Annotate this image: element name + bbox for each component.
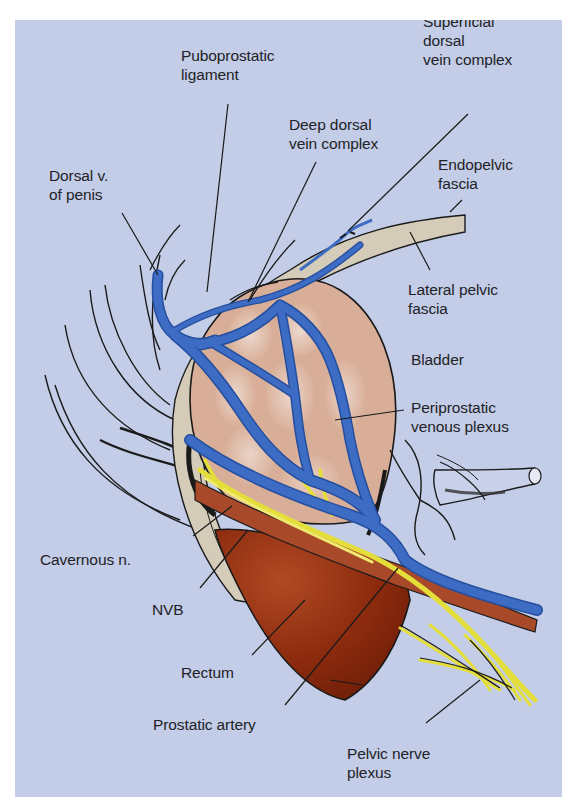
label-endopelvic-fascia: Endopelvic fascia — [438, 155, 513, 193]
label-puboprostatic-ligament: Puboprostatic ligament — [181, 46, 274, 84]
label-pelvic-nerve-plexus: Pelvic nerve plexus — [347, 744, 430, 782]
label-periprostatic-venous-plexus: Periprostatic venous plexus — [411, 398, 509, 436]
anatomy-figure-panel: Puboprostatic ligament Superficial dorsa… — [15, 20, 562, 797]
ureter-tube — [434, 468, 539, 505]
label-superficial-dorsal-vein-complex: Superficial dorsal vein complex — [423, 20, 512, 69]
label-lateral-pelvic-fascia: Lateral pelvic fascia — [408, 280, 498, 318]
label-nvb: NVB — [152, 600, 184, 619]
label-bladder: Bladder — [411, 350, 464, 369]
label-rectum: Rectum — [181, 663, 234, 682]
rectum-shape — [215, 529, 410, 700]
label-prostatic-artery: Prostatic artery — [153, 715, 256, 734]
label-cavernous-n: Cavernous n. — [40, 550, 131, 569]
label-deep-dorsal-vein-complex: Deep dorsal vein complex — [289, 115, 378, 153]
label-dorsal-v-of-penis: Dorsal v. of penis — [49, 166, 108, 204]
